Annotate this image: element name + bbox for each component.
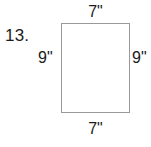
rectangle-shape [61, 23, 130, 113]
problem-number: 13. [5, 26, 29, 45]
dimension-label-left: 9" [38, 49, 53, 67]
dimension-label-right: 9" [132, 49, 147, 67]
geometry-problem-figure: 13. 7" 9" 9" 7" [0, 0, 151, 147]
dimension-label-top: 7" [61, 3, 130, 21]
dimension-label-bottom: 7" [61, 120, 130, 138]
